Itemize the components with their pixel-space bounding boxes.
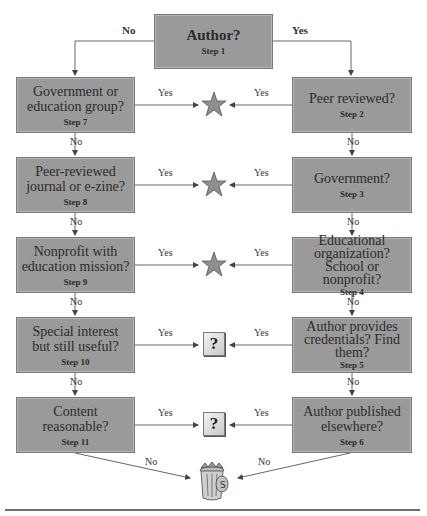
edge-yes-label: Yes: [254, 327, 269, 338]
step6-step: Step 6: [340, 437, 364, 447]
step2-box: Peer reviewed? Step 2: [292, 77, 412, 133]
edge-no-label: No: [70, 376, 82, 387]
step3-box: Government? Step 3: [292, 157, 412, 213]
edge-step11-no: [75, 453, 190, 478]
edge-no-label: No: [70, 216, 82, 227]
step4-step: Step 4: [340, 287, 364, 297]
step6-question: Author published elsewhere?: [302, 404, 402, 434]
step7-question: Government or education group?: [21, 84, 131, 114]
step3-step: Step 3: [340, 189, 364, 199]
star-icon: [201, 171, 227, 197]
edge-yes-label: Yes: [158, 327, 173, 338]
step8-box: Peer-reviewed journal or e-zine? Step 8: [16, 157, 135, 213]
edge-yes-label: Yes: [158, 87, 173, 98]
edge-no-label: No: [70, 296, 82, 307]
start-no-label: No: [122, 24, 135, 36]
edge-no-label: No: [347, 376, 359, 387]
start-yes-label: Yes: [292, 24, 308, 36]
step10-question: Special interest but still useful?: [23, 324, 128, 354]
step7-step: Step 7: [64, 117, 88, 127]
step8-question: Peer-reviewed journal or e-zine?: [21, 164, 131, 194]
edge-step6-no: [238, 453, 350, 478]
step8-step: Step 8: [64, 197, 88, 207]
step2-step: Step 2: [340, 109, 364, 119]
step6-box: Author published elsewhere? Step 6: [292, 397, 412, 453]
step2-question: Peer reviewed?: [309, 91, 395, 106]
edge-no-label: No: [347, 296, 359, 307]
step11-question: Content reasonable?: [31, 404, 121, 434]
edge-step11-no-label: No: [145, 456, 157, 467]
edge-yes-label: Yes: [158, 407, 173, 418]
step9-box: Nonprofit with education mission? Step 9: [16, 237, 135, 293]
edge-no-label: No: [347, 136, 359, 147]
question-mark-icon: ?: [203, 332, 225, 356]
edge-step6-no-label: No: [258, 456, 270, 467]
edge-yes-label: Yes: [158, 247, 173, 258]
edge-yes-label: Yes: [254, 87, 269, 98]
step9-question: Nonprofit with education mission?: [20, 244, 132, 274]
question-mark-icon: ?: [203, 412, 225, 436]
step7-box: Government or education group? Step 7: [16, 77, 135, 133]
edge-yes-label: Yes: [254, 167, 269, 178]
step4-box: Educational organization? School or nonp…: [292, 237, 412, 293]
step5-box: Author provides credentials? Find them? …: [292, 317, 412, 373]
start-box: Author? Step 1: [154, 14, 273, 69]
star-icon: [201, 91, 227, 117]
step5-step: Step 5: [340, 360, 364, 370]
step9-step: Step 9: [64, 277, 88, 287]
edge-yes-label: Yes: [158, 167, 173, 178]
step3-question: Government?: [314, 171, 390, 186]
step4-question: Educational organization? School or nonp…: [295, 234, 409, 286]
trash-can-icon: S: [195, 462, 229, 502]
step11-step: Step 11: [62, 437, 90, 447]
edge-no-label: No: [70, 136, 82, 147]
start-question: Author?: [186, 28, 240, 43]
edge-start-no: [75, 41, 154, 75]
svg-text:S: S: [220, 480, 226, 490]
step10-step: Step 10: [61, 357, 89, 367]
step11-box: Content reasonable? Step 11: [16, 397, 135, 453]
edge-yes-label: Yes: [254, 247, 269, 258]
edge-start-yes: [273, 41, 351, 75]
step10-box: Special interest but still useful? Step …: [16, 317, 135, 373]
start-step: Step 1: [202, 46, 226, 56]
edge-no-label: No: [347, 216, 359, 227]
bottom-divider: [5, 509, 420, 511]
step5-question: Author provides credentials? Find them?: [302, 320, 402, 359]
edge-yes-label: Yes: [254, 407, 269, 418]
star-icon: [201, 251, 227, 277]
